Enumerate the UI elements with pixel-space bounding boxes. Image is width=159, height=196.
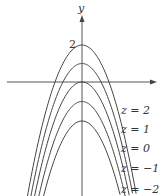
label-z-1: z = 1 <box>120 123 150 136</box>
level-curve-labels: z = 2 z = 1 z = 0 z = −1 z = −2 <box>120 104 159 196</box>
label-z-0: z = 0 <box>120 142 150 155</box>
label-z-2: z = 2 <box>120 104 150 117</box>
x-axis-arrow-icon <box>150 80 157 85</box>
level-curve-diagram: y 2 z = 2 z = 1 z = 0 z = −1 z = −2 <box>0 0 159 196</box>
label-z-neg2: z = −2 <box>120 183 159 196</box>
y-axis-arrow-icon <box>80 15 85 22</box>
y-axis-label: y <box>77 2 85 15</box>
label-z-neg1: z = −1 <box>120 162 159 175</box>
